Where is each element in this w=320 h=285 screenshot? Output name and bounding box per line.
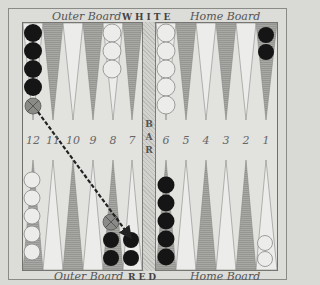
point-number: 1 [257, 134, 275, 147]
bar-letter: R [142, 144, 156, 157]
point-number: 5 [177, 134, 195, 147]
top-home-board-label: Home Board [190, 10, 260, 23]
point-number: 9 [84, 134, 102, 147]
bar-letter: B [142, 118, 156, 131]
point-number: 8 [104, 134, 122, 147]
top-outer-board-label: Outer Board [52, 10, 121, 23]
checkers-bottom-6 [158, 177, 175, 266]
checkers-top-8 [103, 24, 121, 78]
bottom-points-left [23, 160, 142, 270]
ghost-checker-bottom-8 [103, 214, 119, 230]
point-number: 4 [197, 134, 215, 147]
point-number: 10 [64, 134, 82, 147]
point-number: 7 [123, 134, 141, 147]
bottom-home-board-label: Home Board [190, 270, 260, 283]
red-label: RED [128, 272, 159, 282]
bottom-outer-board-label: Outer Board [54, 270, 123, 283]
bottom-points-right [156, 160, 277, 270]
white-label: WHITE [122, 12, 173, 22]
point-number: 12 [24, 134, 42, 147]
checkers-bottom-12 [24, 172, 40, 260]
point-number: 2 [237, 134, 255, 147]
point-number: 11 [44, 134, 62, 147]
bar-letter: A [142, 131, 156, 144]
bar-label: B A R [142, 118, 156, 157]
point-number: 6 [157, 134, 175, 147]
point-number: 3 [217, 134, 235, 147]
checkers-top-6 [157, 24, 175, 114]
